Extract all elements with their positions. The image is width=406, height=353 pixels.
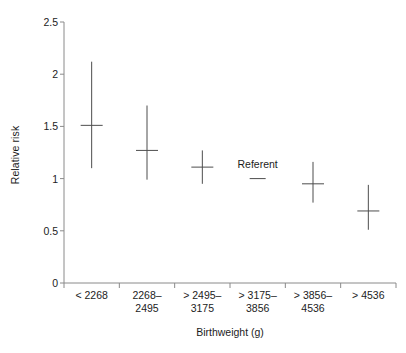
x-axis-tick-label: 2268– 2495 xyxy=(119,289,174,315)
chart-canvas xyxy=(64,22,396,283)
x-axis-tick-label: > 2495– 3175 xyxy=(175,289,230,315)
x-axis-tick-label: > 4536 xyxy=(341,289,396,302)
y-axis-title: Relative risk xyxy=(8,100,22,210)
x-axis-tick-label: < 2268 xyxy=(64,289,119,302)
y-axis-tick-label: 0.5 xyxy=(30,226,58,236)
x-axis-tick-label: > 3175– 3856 xyxy=(230,289,285,315)
x-axis-tick-labels: < 22682268– 2495> 2495– 3175> 3175– 3856… xyxy=(64,289,396,321)
y-axis-tick-label: 0 xyxy=(30,278,58,288)
data-point xyxy=(357,185,379,230)
data-point xyxy=(81,62,103,168)
x-axis-title: Birthweight (g) xyxy=(64,326,396,339)
y-axis-tick-label: 1.5 xyxy=(30,121,58,131)
plot-area xyxy=(64,22,396,283)
y-axis-tick-labels: 00.511.522.5 xyxy=(24,22,58,283)
data-point xyxy=(136,106,158,180)
relative-risk-chart: Relative risk 00.511.522.5 < 22682268– 2… xyxy=(0,0,406,353)
referent-annotation: Referent xyxy=(238,158,278,170)
data-point xyxy=(191,150,213,183)
data-point xyxy=(302,162,324,203)
y-axis-tick-label: 1 xyxy=(30,174,58,184)
x-axis-tick-label: > 3856– 4536 xyxy=(285,289,340,315)
y-axis-tick-label: 2.5 xyxy=(30,17,58,27)
y-axis-tick-label: 2 xyxy=(30,69,58,79)
